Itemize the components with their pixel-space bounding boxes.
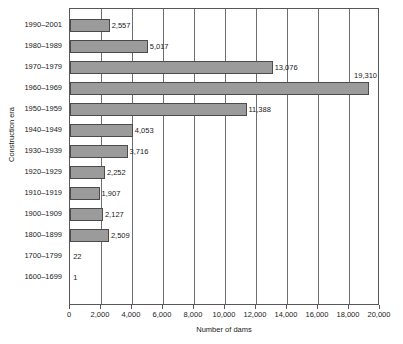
x-axis-tick — [224, 305, 225, 309]
bar-value-label: 2,557 — [112, 19, 131, 32]
bar[interactable] — [70, 124, 133, 137]
bar-value-label: 11,388 — [249, 103, 271, 116]
y-axis-tick-label: 1900–1909 — [24, 203, 62, 224]
bar-chart-figure: Construction era 1990–20011980–19891970–… — [0, 0, 403, 344]
bar-value-label: 1 — [73, 271, 77, 284]
x-axis-tick — [286, 305, 287, 309]
x-axis-tick — [131, 305, 132, 309]
x-axis-tick — [255, 305, 256, 309]
bar-row[interactable]: 2,127 — [70, 204, 378, 225]
x-axis-tick-label: 8,000 — [184, 310, 203, 319]
x-axis-tick — [193, 305, 194, 309]
y-axis-tick-label: 1990–2001 — [24, 14, 62, 35]
bar[interactable] — [70, 145, 128, 158]
bar-row[interactable]: 1,907 — [70, 183, 378, 204]
bar[interactable] — [70, 208, 103, 221]
bar-value-label: 19,310 — [354, 69, 377, 82]
bar-row[interactable]: 2,252 — [70, 162, 378, 183]
bar[interactable] — [70, 229, 109, 242]
x-axis-tick — [379, 305, 380, 309]
y-axis-tick-label: 1960–1969 — [24, 77, 62, 98]
x-axis-tick-label: 10,000 — [213, 310, 236, 319]
x-axis-tick — [162, 305, 163, 309]
bar[interactable] — [70, 40, 148, 53]
bar-value-label: 2,252 — [107, 166, 126, 179]
bar-row[interactable]: 2,557 — [70, 15, 378, 36]
x-axis-tick — [100, 305, 101, 309]
bar-value-label: 13,076 — [275, 61, 298, 74]
bar[interactable] — [70, 166, 105, 179]
y-axis-tick-label: 1940–1949 — [24, 119, 62, 140]
bar-value-label: 4,053 — [135, 124, 154, 137]
bar[interactable] — [70, 19, 110, 32]
y-axis-tick-label: 1600–1699 — [24, 266, 62, 287]
bar-row[interactable]: 11,388 — [70, 99, 378, 120]
x-axis-tick-labels: 02,0004,0006,0008,00010,00012,00014,0001… — [69, 310, 379, 322]
bar-value-label: 2,509 — [111, 229, 130, 242]
bar-row[interactable]: 1 — [70, 267, 378, 288]
y-axis-tick-label: 1930–1939 — [24, 140, 62, 161]
y-axis-tick-label: 1700–1799 — [24, 245, 62, 266]
bar-value-label: 3,716 — [130, 145, 149, 158]
bar-row[interactable]: 13,076 — [70, 57, 378, 78]
bar[interactable] — [70, 82, 369, 95]
y-axis-tick-label: 1920–1929 — [24, 161, 62, 182]
x-axis-tick-label: 14,000 — [275, 310, 298, 319]
x-axis-tick-label: 2,000 — [91, 310, 110, 319]
y-axis-tick-labels: 1990–20011980–19891970–19791960–19691950… — [0, 8, 66, 305]
x-axis-tick-label: 20,000 — [368, 310, 391, 319]
bar-row[interactable]: 2,509 — [70, 225, 378, 246]
x-axis-tick-label: 12,000 — [244, 310, 267, 319]
y-axis-tick-label: 1950–1959 — [24, 98, 62, 119]
y-axis-tick-label: 1980–1989 — [24, 35, 62, 56]
x-axis-tick-label: 0 — [67, 310, 71, 319]
x-axis-tick — [69, 305, 70, 309]
bar-row[interactable]: 3,716 — [70, 141, 378, 162]
bar[interactable] — [70, 61, 273, 74]
bars-layer: 2,5575,01713,07619,31011,3884,0533,7162,… — [70, 9, 378, 304]
x-axis-tick-label: 18,000 — [337, 310, 360, 319]
bar[interactable] — [70, 103, 247, 116]
plot-area: 2,5575,01713,07619,31011,3884,0533,7162,… — [69, 8, 379, 305]
bar-value-label: 2,127 — [105, 208, 124, 221]
bar-value-label: 1,907 — [102, 187, 121, 200]
bar-row[interactable]: 19,310 — [70, 78, 378, 99]
bar-row[interactable]: 22 — [70, 246, 378, 267]
x-axis-tick-label: 16,000 — [306, 310, 329, 319]
x-axis-title: Number of dams — [69, 325, 379, 334]
bar[interactable] — [70, 187, 100, 200]
x-axis-tick — [348, 305, 349, 309]
y-axis-tick-label: 1970–1979 — [24, 56, 62, 77]
x-axis-tick-label: 4,000 — [122, 310, 141, 319]
bar-value-label: 22 — [73, 250, 81, 263]
bar-row[interactable]: 4,053 — [70, 120, 378, 141]
x-axis-tick-label: 6,000 — [153, 310, 172, 319]
bar-value-label: 5,017 — [150, 40, 169, 53]
bar-row[interactable]: 5,017 — [70, 36, 378, 57]
x-axis-tick — [317, 305, 318, 309]
y-axis-tick-label: 1910–1919 — [24, 182, 62, 203]
y-axis-tick-label: 1800–1899 — [24, 224, 62, 245]
